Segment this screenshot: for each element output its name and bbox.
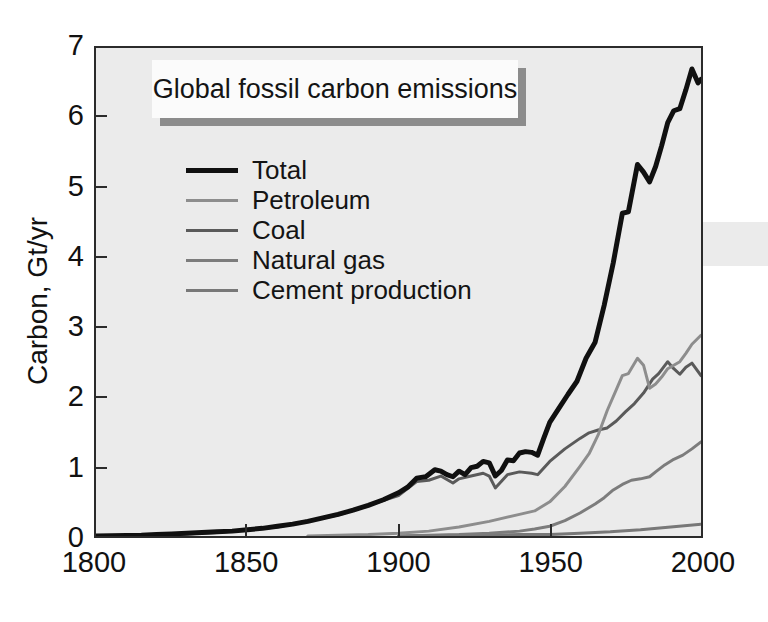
legend-label: Petroleum	[252, 187, 371, 213]
legend-label: Coal	[252, 217, 305, 243]
x-axis-tick-2000: 2000	[633, 548, 768, 577]
x-axis-tick-1850: 1850	[176, 548, 316, 577]
legend-swatch-icon	[186, 199, 238, 202]
series-line-coal	[157, 362, 702, 536]
y-tick-mark	[94, 396, 107, 398]
legend-swatch-icon	[186, 229, 238, 232]
y-tick-mark	[94, 326, 107, 328]
legend-swatch-icon	[186, 289, 238, 292]
scan-artifact-band	[703, 222, 768, 266]
legend-item-coal: Coal	[186, 215, 516, 245]
legend-swatch-icon	[186, 168, 238, 173]
y-axis-tick-1: 1	[44, 453, 84, 482]
x-axis-tick-1950: 1950	[481, 548, 621, 577]
x-tick-mark	[398, 524, 400, 538]
chart-title-plate: Global fossil carbon emissions	[152, 60, 518, 118]
series-line-natural-gas	[399, 442, 702, 536]
chart-figure: 01234567 Carbon, Gt/yr Global fossil car…	[0, 0, 768, 622]
y-tick-mark	[94, 256, 107, 258]
legend-swatch-icon	[186, 259, 238, 262]
x-tick-mark	[550, 524, 552, 538]
chart-legend: TotalPetroleumCoalNatural gasCement prod…	[186, 155, 516, 305]
chart-title: Global fossil carbon emissions	[153, 74, 518, 105]
y-tick-mark	[94, 115, 107, 117]
x-tick-mark	[245, 524, 247, 538]
y-axis-label: Carbon, Gt/yr	[22, 171, 54, 431]
legend-item-natural-gas: Natural gas	[186, 245, 516, 275]
x-axis-tick-1800: 1800	[24, 548, 164, 577]
legend-item-total: Total	[186, 155, 516, 185]
y-tick-mark	[94, 186, 107, 188]
y-tick-mark	[94, 467, 107, 469]
legend-label: Natural gas	[252, 247, 385, 273]
legend-item-cement-production: Cement production	[186, 275, 516, 305]
legend-label: Total	[252, 157, 307, 183]
x-axis-tick-1900: 1900	[329, 548, 469, 577]
legend-item-petroleum: Petroleum	[186, 185, 516, 215]
y-axis-tick-6: 6	[44, 101, 84, 130]
legend-label: Cement production	[252, 277, 472, 303]
y-axis-tick-7: 7	[44, 31, 84, 60]
